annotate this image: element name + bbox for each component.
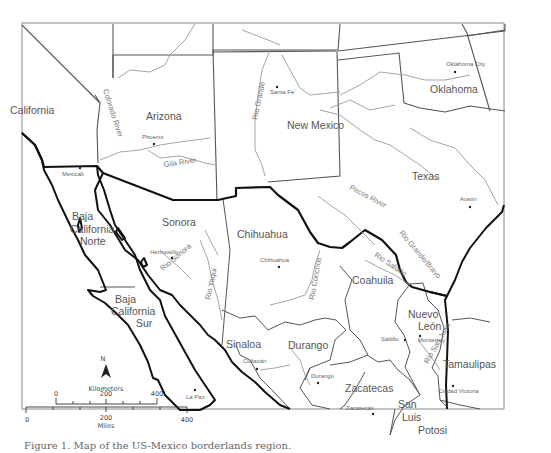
- city-label: Hermosillo: [150, 249, 179, 255]
- km-tick-0: 0: [54, 390, 58, 398]
- mx-state-label: Chihuahua: [237, 228, 288, 240]
- city-star-icon: [79, 167, 81, 169]
- mx-state-label: Coahuila: [352, 274, 394, 286]
- city-label: Oklahoma City: [446, 61, 485, 67]
- mi-tick-400: 400: [181, 416, 193, 424]
- city-star-icon: [278, 266, 280, 268]
- city-star-icon: [171, 257, 173, 259]
- mx-state-label: Baja: [115, 293, 136, 305]
- river-label: Pecos River: [348, 183, 388, 210]
- city-label: Culiacán: [243, 358, 266, 364]
- city-label: La Paz: [186, 394, 205, 400]
- us-state-label: New Mexico: [287, 119, 344, 131]
- city-star-icon: [317, 382, 319, 384]
- river-label: Rio Grande: [250, 81, 267, 120]
- mx-state-label: León: [418, 320, 442, 332]
- mi-scale-line: [26, 407, 187, 413]
- mi-tick-0: 0: [25, 416, 29, 424]
- mx-state-label: Zacatecas: [345, 382, 393, 394]
- mi-label: Miles: [98, 422, 115, 430]
- city-star-icon: [256, 368, 258, 370]
- river-label: Rio Sonora: [159, 241, 194, 273]
- north-arrow-label: N: [101, 355, 106, 363]
- north-arrow: N: [101, 355, 111, 378]
- scale-bar: Kilometers 0 200 400 0 200 400 Miles: [25, 385, 193, 430]
- mx-state-label: Durango: [288, 339, 328, 351]
- city-star-icon: [452, 385, 454, 387]
- km-scale-line: [56, 398, 157, 404]
- mx-state-label: Luis: [402, 411, 421, 423]
- mx-state-label: Sur: [136, 317, 153, 329]
- mx-state-label: Baja: [72, 210, 93, 222]
- figure-caption: Figure 1. Map of the US-Mexico borderlan…: [24, 440, 291, 451]
- mx-state-label: Norte: [80, 235, 106, 247]
- mi-tick-200: 200: [100, 414, 112, 422]
- km-tick-200: 200: [100, 390, 112, 398]
- city-label: Zacatecas: [346, 405, 374, 411]
- city-label: Chihuahua: [260, 257, 290, 263]
- city-label: Ciudad Victoria: [438, 388, 479, 394]
- city-label: Phoenix: [142, 134, 164, 140]
- river-label: Colorado River: [101, 88, 125, 139]
- city-star-icon: [404, 339, 406, 341]
- km-tick-400: 400: [151, 390, 163, 398]
- mx-state-label: Sonora: [162, 216, 196, 228]
- river-label: Rio Conchos: [307, 256, 323, 300]
- us-state-label: Arizona: [146, 110, 182, 122]
- us-state-label: Texas: [412, 170, 439, 182]
- mx-state-label: Nuevo: [408, 308, 439, 320]
- city-star-icon: [454, 71, 456, 73]
- mx-state-label: Sinaloa: [226, 338, 261, 350]
- city-label: Santa Fe: [270, 89, 295, 95]
- mx-state-label: California: [70, 223, 115, 235]
- north-arrow-icon: [101, 364, 111, 378]
- us-state-label: California: [10, 104, 55, 116]
- borderlands-map: CaliforniaArizonaNew MexicoOklahomaTexas…: [0, 0, 551, 453]
- mx-state-label: Potosi: [418, 424, 447, 436]
- city-star-icon: [469, 206, 471, 208]
- mx-state-label: San: [398, 398, 417, 410]
- city-label: Saltillo: [381, 336, 399, 342]
- city-label: Durango: [311, 373, 335, 379]
- city-label: Mexicali: [62, 171, 84, 177]
- city-star-icon: [372, 413, 374, 415]
- city-star-icon: [276, 86, 278, 88]
- city-label: Monterrey: [418, 337, 445, 343]
- city-star-icon: [194, 389, 196, 391]
- mx-state-label: Tamaulipas: [443, 358, 496, 370]
- mx-state-label: California: [111, 305, 156, 317]
- city-label: Austin: [460, 196, 477, 202]
- city-star-icon: [153, 143, 155, 145]
- river-labels: Colorado RiverGila RiverRio GrandePecos …: [101, 81, 452, 365]
- us-state-label: Oklahoma: [430, 83, 478, 95]
